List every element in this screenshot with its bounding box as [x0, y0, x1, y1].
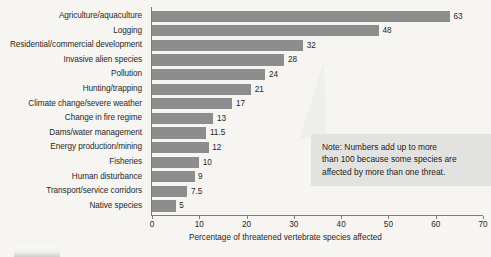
bar — [152, 186, 187, 197]
bar-value-label: 21 — [251, 83, 264, 97]
x-axis-tick-label: 60 — [431, 220, 440, 229]
x-axis-tick-label: 40 — [337, 220, 346, 229]
bar — [152, 69, 265, 80]
category-label: Pollution — [0, 67, 146, 82]
category-label-column: Agriculture/aquaculture Logging Resident… — [0, 9, 146, 213]
category-label: Native species — [0, 199, 146, 214]
category-label: Climate change/severe weather — [0, 97, 146, 112]
bar — [152, 84, 251, 95]
category-label: Invasive alien species — [0, 53, 146, 68]
category-label: Energy production/mining — [0, 140, 146, 155]
x-axis-tick-label: 20 — [242, 220, 251, 229]
x-axis-tick-mark — [247, 216, 248, 219]
bar — [152, 25, 379, 36]
x-axis-tick-mark — [294, 216, 295, 219]
bar-row: 5 — [152, 199, 483, 214]
category-label: Logging — [0, 24, 146, 39]
x-axis-tick-mark — [436, 216, 437, 219]
note-callout-box: Note: Numbers add up to more than 100 be… — [311, 134, 491, 186]
bar — [152, 142, 209, 153]
bar-row: 32 — [152, 38, 483, 53]
category-label: Residential/commercial development — [0, 38, 146, 53]
bar — [152, 200, 176, 211]
y-axis-line — [151, 7, 152, 216]
bar-value-label: 7.5 — [187, 185, 202, 199]
bar-row: 63 — [152, 9, 483, 24]
x-axis-tick-mark — [388, 216, 389, 219]
bar-value-label: 17 — [232, 97, 245, 111]
bar-value-label: 63 — [450, 10, 463, 24]
x-axis-tick-label: 30 — [289, 220, 298, 229]
bar — [152, 54, 284, 65]
bar — [152, 113, 213, 124]
page-edge-artifact — [14, 246, 60, 257]
bar-value-label: 28 — [284, 53, 297, 67]
x-axis-tick-label: 10 — [195, 220, 204, 229]
bar — [152, 127, 206, 138]
note-line: than 100 because some species are — [322, 153, 481, 165]
x-axis-tick-mark — [199, 216, 200, 219]
category-label: Dams/water management — [0, 126, 146, 141]
category-label: Change in fire regime — [0, 111, 146, 126]
category-label: Agriculture/aquaculture — [0, 9, 146, 24]
x-axis-line — [151, 215, 483, 216]
bar-value-label: 5 — [176, 199, 184, 213]
x-axis-tick-label: 50 — [384, 220, 393, 229]
note-pointer-icon — [300, 60, 326, 138]
bar-value-label: 12 — [209, 141, 222, 155]
x-axis-tick-label: 70 — [478, 220, 487, 229]
bar-row: 48 — [152, 24, 483, 39]
note-line: affected by more than one threat. — [322, 166, 481, 178]
x-axis-tick-label: 0 — [150, 220, 155, 229]
category-label: Transport/service corridors — [0, 184, 146, 199]
bar-value-label: 11.5 — [206, 126, 225, 140]
x-axis-tick-mark — [483, 216, 484, 219]
bar-value-label: 9 — [195, 170, 203, 184]
bar-value-label: 10 — [199, 156, 212, 170]
bar — [152, 171, 195, 182]
category-label: Human disturbance — [0, 170, 146, 185]
bar — [152, 157, 199, 168]
category-label: Fisheries — [0, 155, 146, 170]
bar — [152, 40, 303, 51]
bar-value-label: 48 — [379, 24, 392, 38]
x-axis-title: Percentage of threatened vertebrate spec… — [0, 233, 483, 242]
note-line: Note: Numbers add up to more — [322, 141, 481, 153]
category-label: Hunting/trapping — [0, 82, 146, 97]
bar-value-label: 13 — [213, 112, 226, 126]
bar-value-label: 32 — [303, 39, 316, 53]
bar — [152, 11, 450, 22]
bar-value-label: 24 — [265, 68, 278, 82]
bar-row: 7.5 — [152, 184, 483, 199]
bar — [152, 98, 232, 109]
x-axis-tick-mark — [152, 216, 153, 219]
x-axis-tick-mark — [341, 216, 342, 219]
